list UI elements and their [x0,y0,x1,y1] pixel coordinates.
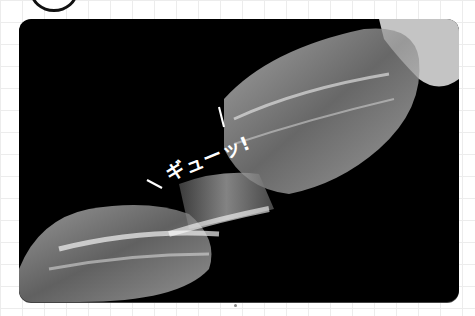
photo-panel: ギューッ! [19,19,459,302]
section-badge-circle [30,0,78,12]
bottle-illustration [19,19,459,302]
page-dot [234,304,237,307]
